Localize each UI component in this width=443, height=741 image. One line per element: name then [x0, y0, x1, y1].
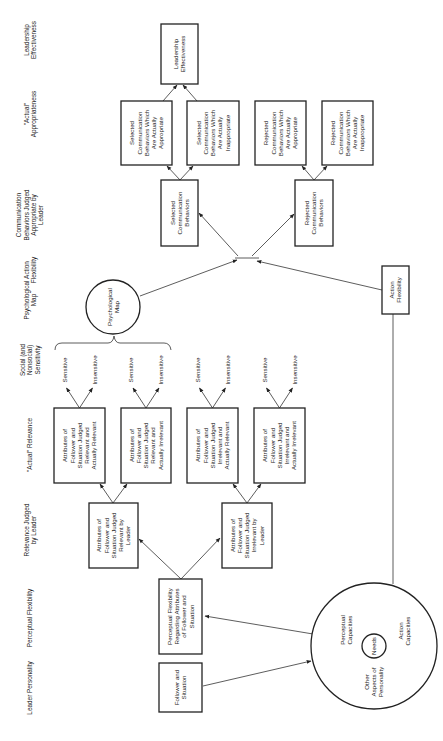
arrow-ji-to-irrelirrel — [247, 484, 261, 503]
arrow-pf-to-judged-relevant — [139, 539, 181, 579]
relevant-actually-irrelevant-box-label-line: Attributes of — [128, 429, 135, 462]
sensitive-label: Sensitive — [127, 357, 134, 383]
selected-appropriate-box-label-line: Selected — [128, 120, 135, 145]
irrelevant-actually-relevant-box-label-line: Actually Relevant — [223, 421, 230, 469]
relevant-actually-relevant-box-label-line: Actually Relevant — [90, 421, 97, 469]
psychological-map-label-line: Map — [113, 300, 120, 313]
psychological-map-label-line: Psychological — [106, 288, 113, 326]
arrow-to-insensitive — [213, 388, 226, 408]
irrelevant-actually-relevant-box-label-line: Follower and — [202, 427, 209, 463]
column-header-perceptual-flexibility: Perceptual Flexibility — [26, 588, 34, 647]
column-header-comm-judged: CommunicationBehaviors JudgedAppropriate… — [15, 189, 44, 241]
rejected-appropriate-box-label-line: Communication — [270, 111, 277, 155]
relevant-actually-relevant-box-label-line: Attributes of — [61, 429, 68, 462]
judged-relevant-box-label-line: Attributes of — [95, 519, 102, 552]
selected-behaviors-box-label-line: Selected — [169, 200, 176, 225]
needs-label: Needs — [370, 637, 377, 655]
irrelevant-actually-irrelevant-box-label-line: Actually Irrelevant — [290, 421, 297, 470]
perceptual-flexibility-box-label-line: Situation — [188, 604, 195, 629]
arrow-junction-to-selected — [199, 213, 238, 256]
judged-irrelevant-box-label-line: Leader — [258, 526, 265, 545]
action-capacities-label-line: Capacities — [404, 617, 411, 646]
perceptual-flexibility-box-label-line: Perceptual Flexibility — [166, 587, 173, 645]
arrow-selected-to-approp — [167, 166, 180, 180]
column-header-psychological-map-line: Map — [30, 293, 38, 306]
rejected-behaviors-box-label-line: Communication — [310, 191, 317, 235]
follower-situation-box-label-line: Situation — [180, 675, 187, 700]
column-header-action-flexibility: ActionFlexibility — [23, 256, 38, 283]
column-header-perceptual-flexibility-line: Perceptual Flexibility — [26, 588, 34, 647]
rejected-appropriate-box-label-line: Appropriate — [291, 116, 298, 149]
relevant-actually-relevant-box-label-line: Situation Judged — [76, 422, 83, 469]
arrow-to-sensitive — [67, 388, 80, 408]
arrow-pf-to-judged-irrelevant — [181, 538, 220, 579]
rejected-behaviors-box-label-line: Behaviors — [317, 199, 324, 227]
arrow-to-insensitive — [146, 388, 159, 408]
sensitive-label-line: Sensitive — [261, 357, 268, 383]
selected-appropriate-box-label-line: Are Actually — [150, 116, 157, 150]
relevant-actually-irrelevant-box-label-line: Follower and — [135, 427, 142, 463]
column-header-social-sensitivity: Social (andNonsocial)Sensitivity — [19, 344, 42, 376]
relevant-actually-relevant-box-label-line: Follower and — [69, 427, 76, 463]
arrow-to-insensitive — [80, 388, 93, 408]
insensitive-label: Insensitive — [91, 355, 98, 385]
insensitive-label-line: Insensitive — [291, 355, 298, 385]
irrelevant-actually-irrelevant-box-label-line: Irrelevant and — [283, 426, 290, 464]
column-header-relevance-judged: Relevance Judgedby Leader — [23, 503, 38, 556]
perceptual-flexibility-box-label-line: Regarding Attributes — [173, 588, 180, 644]
insensitive-label-line: Insensitive — [224, 355, 231, 385]
arrow-to-sensitive — [200, 388, 213, 408]
rejected-inappropriate-box-label-line: Communication — [337, 111, 344, 155]
sensitive-label: Sensitive — [194, 357, 201, 383]
column-header-actual-appropriateness-line: "Actual" — [23, 103, 30, 125]
irrelevant-actually-irrelevant-box-label-line: Situation Judged — [276, 422, 283, 469]
judged-relevant-box-label-line: Relevant by — [117, 518, 124, 552]
arrow-rejected-to-approp — [302, 166, 314, 180]
insensitive-label: Insensitive — [224, 355, 231, 385]
column-header-comm-judged-line: Leader — [37, 204, 44, 225]
irrelevant-actually-relevant-box-label-line: Attributes of — [194, 429, 201, 462]
action-capacities-label-line: Action — [397, 622, 404, 640]
column-header-leadership-effectiveness-line: Effectiveness — [30, 21, 37, 59]
sensitive-label: Sensitive — [61, 357, 68, 383]
sensitive-label-line: Sensitive — [194, 357, 201, 383]
judged-irrelevant-box-label-line: Irrelevant by — [250, 518, 257, 553]
sensitivity-brace — [55, 336, 171, 350]
perceptual-capacities-label-line: Perceptual — [339, 615, 346, 645]
action-flexibility-box-label-line: Action — [388, 281, 395, 299]
column-header-leader-personality-line: Leader Personality — [26, 661, 34, 715]
rejected-inappropriate-box-label-line: Behaviors Which — [344, 109, 351, 156]
other-aspects-label-line: Aspects of — [370, 667, 377, 696]
selected-behaviors-box-label-line: Communication — [176, 191, 183, 235]
irrelevant-actually-relevant-box-label-line: Situation Judged — [209, 422, 216, 469]
column-header-relevance-judged-line: by Leader — [30, 515, 38, 544]
column-header-leader-personality: Leader Personality — [26, 661, 34, 715]
selected-inappropriate-box-label-line: Inappropriate — [224, 114, 231, 151]
leadership-model-diagram: LeadershipEffectiveness"Actual"Appropria… — [0, 0, 443, 741]
leadership-effectiveness-box-label-line: Effectiveness — [179, 36, 186, 73]
perceptual-capacities-label-line: Capacities — [346, 616, 353, 645]
relevant-actually-irrelevant-box-label-line: Situation Judged — [142, 422, 149, 469]
rejected-behaviors-box-label-line: Rejected — [303, 200, 310, 225]
relevant-actually-irrelevant-box-label-line: Actually Irrelevant — [157, 421, 164, 470]
arrow-jr-to-relrel — [100, 484, 113, 503]
rejected-inappropriate-box-label-line: Inappropriate — [358, 114, 365, 151]
arrow-sel-inapprop-to-effectiveness — [183, 85, 197, 101]
arrow-jr-to-relirrel — [113, 484, 127, 503]
column-header-leadership-effectiveness: LeadershipEffectiveness — [23, 21, 37, 59]
judged-irrelevant-box-label-line: Situation Judged — [243, 512, 250, 559]
irrelevant-actually-relevant-box-label-line: Irrelevant and — [216, 426, 223, 464]
leadership-effectiveness-box-label-line: Leadership — [172, 38, 179, 69]
arrow-to-sensitive — [133, 388, 146, 408]
rejected-inappropriate-box-label-line: Rejected — [329, 120, 336, 145]
column-header-psychological-map: PsychologicalMap — [23, 280, 38, 319]
arrow-ji-to-irrelrel — [233, 484, 247, 503]
other-aspects-label-line: Other — [363, 674, 370, 689]
insensitive-label: Insensitive — [291, 355, 298, 385]
arrow-perceptual-capacities-to-pf — [205, 616, 313, 634]
selected-inappropriate-box-label-line: Selected — [195, 120, 202, 145]
arrow-rejected-to-inapprop — [314, 166, 327, 180]
leadership-effectiveness-box-label: LeadershipEffectiveness — [172, 36, 186, 73]
column-header-social-sensitivity-line: Sensitivity — [34, 345, 42, 375]
perceptual-flexibility-box-label-line: of Follower and — [180, 595, 187, 638]
